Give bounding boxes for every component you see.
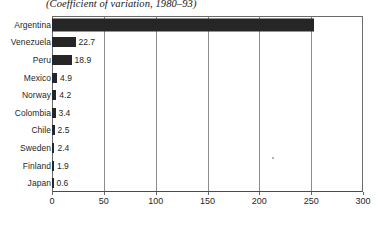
category-label-chile: Chile (31, 125, 51, 135)
category-label-japan: Japan (28, 178, 51, 188)
x-tick-label-0: 0 (49, 196, 54, 206)
x-tick-mark-200 (259, 192, 260, 195)
x-tick-mark-150 (208, 192, 209, 195)
bar-row: Venezuela22.7 (0, 34, 378, 52)
x-tick-mark-250 (311, 192, 312, 195)
bar-row: Norway4.2 (0, 86, 378, 104)
value-label-sweden: 2.4 (57, 143, 69, 153)
value-label-venezuela: 22.7 (79, 37, 96, 47)
x-tick-label-200: 200 (252, 196, 267, 206)
bar-colombia (52, 108, 56, 118)
chart-title: (Coefficient of variation, 1980–93) (46, 0, 196, 9)
x-axis-tick-labels: 050100150200250300 (0, 196, 378, 210)
category-label-norway: Norway (22, 90, 51, 100)
scan-artifact-speck (272, 157, 274, 159)
value-label-mexico: 4.9 (60, 73, 72, 83)
bar-norway (52, 90, 56, 100)
bar-row: Peru18.9 (0, 51, 378, 69)
bar-row: Japan0.6 (0, 174, 378, 192)
x-tick-mark-300 (363, 192, 364, 195)
bar-row: Colombia3.4 (0, 104, 378, 122)
x-tick-label-50: 50 (99, 196, 109, 206)
x-tick-mark-100 (156, 192, 157, 195)
bar-sweden (52, 143, 54, 153)
value-label-norway: 4.2 (59, 90, 71, 100)
bar-peru (52, 55, 72, 65)
value-label-peru: 18.9 (75, 55, 92, 65)
bar-argentina (52, 18, 314, 31)
value-label-colombia: 3.4 (59, 108, 71, 118)
x-tick-label-250: 250 (304, 196, 319, 206)
value-label-finland: 1.9 (57, 161, 69, 171)
x-tick-label-150: 150 (200, 196, 215, 206)
bar-row: Mexico4.9 (0, 69, 378, 87)
bar-row: Chile2.5 (0, 122, 378, 140)
x-tick-label-100: 100 (148, 196, 163, 206)
x-tick-mark-50 (104, 192, 105, 195)
category-label-peru: Peru (33, 55, 51, 65)
value-label-japan: 0.6 (57, 178, 69, 188)
category-label-venezuela: Venezuela (11, 37, 51, 47)
bar-row: Sweden2.4 (0, 139, 378, 157)
category-label-mexico: Mexico (24, 73, 51, 83)
bar-row: Argentina (0, 16, 378, 34)
bar-row: Finland1.9 (0, 157, 378, 175)
bar-chile (52, 125, 55, 135)
bar-mexico (52, 73, 57, 83)
bar-finland (52, 161, 54, 171)
category-label-finland: Finland (23, 161, 51, 171)
bar-rows-container: ArgentinaVenezuela22.7Peru18.9Mexico4.9N… (0, 16, 378, 192)
x-tick-mark-0 (52, 192, 53, 195)
category-label-colombia: Colombia (15, 108, 51, 118)
value-label-chile: 2.5 (58, 125, 70, 135)
bar-venezuela (52, 37, 76, 47)
bar-chart-figure: (Coefficient of variation, 1980–93) Arge… (0, 0, 378, 229)
category-label-sweden: Sweden (20, 143, 51, 153)
x-tick-label-300: 300 (355, 196, 370, 206)
bar-japan (52, 178, 54, 188)
category-label-argentina: Argentina (14, 20, 51, 30)
